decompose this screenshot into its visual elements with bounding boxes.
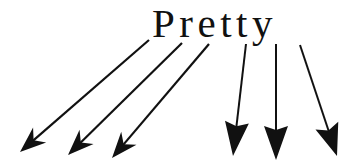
figure-canvas: Pretty xyxy=(0,0,355,161)
word-pretty: Pretty xyxy=(152,0,277,46)
arrow-diagram: Pretty xyxy=(0,0,355,161)
